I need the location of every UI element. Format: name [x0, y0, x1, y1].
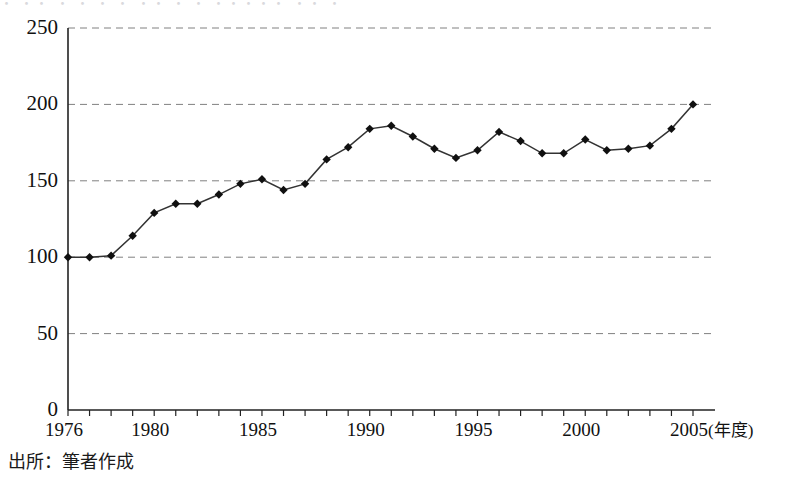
y-axis-tick-label: 50 — [2, 323, 58, 344]
x-axis-tick-label: 2005(年度) — [670, 420, 753, 440]
data-point-marker — [258, 175, 266, 183]
figure-container: ・ ・・ ・ ・ ・ ・ ・・ ・ ・ ・・・・・ ・・ ・ 050100150… — [0, 0, 790, 482]
data-point-marker — [409, 132, 417, 140]
y-axis-tick-label: 200 — [2, 93, 58, 114]
x-axis-unit-label: (年度) — [708, 421, 753, 440]
x-axis-tick-label: 1976 — [45, 420, 83, 439]
data-point-marker — [64, 253, 72, 261]
data-point-marker — [538, 149, 546, 157]
data-point-marker — [624, 145, 632, 153]
x-axis-tick-label: 1990 — [347, 420, 385, 439]
figure-source-caption: 出所：筆者作成 — [8, 452, 134, 472]
gridlines-group — [68, 28, 715, 334]
data-point-marker — [193, 200, 201, 208]
data-point-marker — [85, 253, 93, 261]
line-chart-svg — [0, 0, 790, 440]
data-point-marker — [430, 145, 438, 153]
data-point-marker — [172, 200, 180, 208]
y-axis-tick-label: 250 — [2, 17, 58, 38]
data-point-marker — [581, 135, 589, 143]
x-axis-tick-label: 1995 — [454, 420, 492, 439]
data-point-marker — [215, 190, 223, 198]
x-axis-tick-label: 2000 — [562, 420, 600, 439]
chart-plot-area: 050100150200250 197619801985199019952000… — [0, 0, 790, 440]
data-point-marker — [387, 122, 395, 130]
y-axis-tick-label: 100 — [2, 246, 58, 267]
x-axis-tick-label: 1985 — [239, 420, 277, 439]
y-axis-tick-label: 150 — [2, 170, 58, 191]
data-point-marker — [279, 186, 287, 194]
data-point-marker — [603, 146, 611, 154]
data-point-marker — [516, 137, 524, 145]
data-point-marker — [452, 154, 460, 162]
data-point-marker — [559, 149, 567, 157]
x-axis-tick-label: 1980 — [131, 420, 169, 439]
y-axis-tick-label: 0 — [2, 399, 58, 420]
x-axis-ticks-group — [68, 410, 693, 416]
